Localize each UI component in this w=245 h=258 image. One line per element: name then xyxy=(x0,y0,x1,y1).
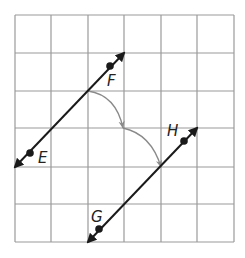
lines xyxy=(15,53,197,242)
arc-segment-2 xyxy=(123,128,161,167)
point-H xyxy=(180,137,188,145)
label-F: F xyxy=(107,72,116,90)
label-H: H xyxy=(167,122,178,140)
arc-segment-1 xyxy=(88,91,123,128)
point-F xyxy=(106,62,114,70)
point-E xyxy=(26,149,34,157)
point-labels: E F G H xyxy=(38,72,178,226)
point-G xyxy=(95,225,103,233)
label-G: G xyxy=(91,208,103,226)
line-GH xyxy=(88,128,197,242)
label-E: E xyxy=(38,149,48,167)
translation-diagram: E F G H xyxy=(0,0,245,258)
